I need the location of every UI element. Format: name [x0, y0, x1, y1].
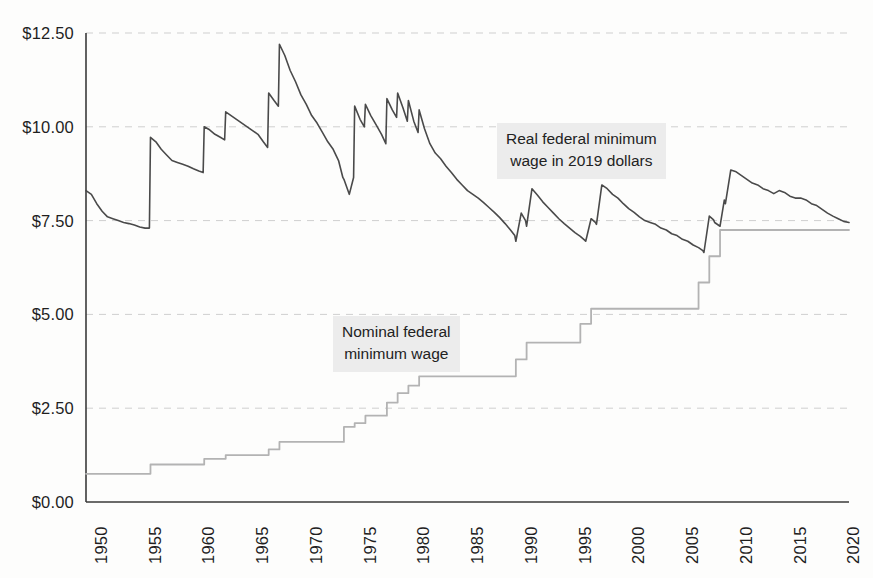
data-series [86, 44, 849, 474]
y-tick-label: $5.00 [0, 305, 74, 324]
x-tick-label: 1975 [361, 526, 380, 564]
minimum-wage-chart: $12.50$10.00$7.50$5.00$2.50$0.00 1950195… [0, 0, 873, 578]
annotation-real-wage: Real federal minimum wage in 2019 dollar… [497, 123, 666, 179]
x-tick-label: 1995 [576, 526, 595, 564]
y-tick-label: $10.00 [0, 117, 74, 136]
x-tick-label: 1965 [253, 526, 272, 564]
annotation-nominal-wage: Nominal federal minimum wage [333, 316, 460, 372]
y-tick-label: $2.50 [0, 399, 74, 418]
x-tick-label: 2005 [683, 526, 702, 564]
gridlines [86, 33, 849, 408]
series-line-nominal [86, 230, 849, 474]
x-tick-label: 1990 [522, 526, 541, 564]
x-tick-label: 2010 [737, 526, 756, 564]
x-tick-label: 1985 [468, 526, 487, 564]
x-tick-label: 2020 [844, 526, 863, 564]
y-tick-label: $0.00 [0, 493, 74, 512]
x-tick-label: 1980 [414, 526, 433, 564]
x-tick-label: 1950 [92, 526, 111, 564]
x-tick-label: 1970 [307, 526, 326, 564]
y-tick-label: $12.50 [0, 24, 74, 43]
x-tick-label: 1960 [199, 526, 218, 564]
x-tick-label: 2000 [629, 526, 648, 564]
x-tick-label: 1955 [146, 526, 165, 564]
x-tick-label: 2015 [791, 526, 810, 564]
chart-axes [86, 33, 849, 502]
chart-plot-area [0, 0, 873, 578]
y-tick-label: $7.50 [0, 211, 74, 230]
series-line-real [86, 44, 849, 252]
